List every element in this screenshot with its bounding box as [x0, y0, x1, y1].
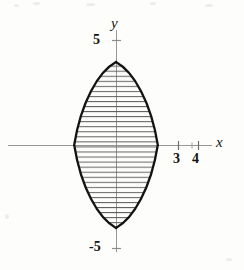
x-tick-label-4: 4: [192, 152, 199, 166]
figure-container: y x 5 -5 3 4: [0, 0, 244, 270]
y-tick-label-negative-5: -5: [89, 240, 101, 254]
y-axis-label: y: [111, 16, 118, 31]
x-tick-label-3: 3: [173, 152, 180, 166]
y-tick-label-5: 5: [93, 33, 100, 47]
lens-region-plot: [0, 0, 244, 270]
shaded-lens-region: [70, 58, 164, 232]
x-axis-label: x: [216, 135, 223, 150]
